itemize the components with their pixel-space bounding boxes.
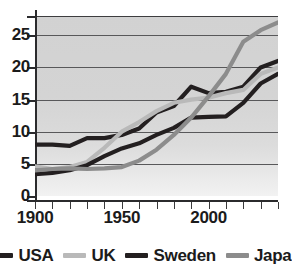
y-axis-label-20: 20 <box>12 58 30 75</box>
x-tick-1930 <box>87 202 88 209</box>
y-axis-label-25: 25 <box>12 26 30 43</box>
series-lines <box>35 16 278 196</box>
x-axis-label-2000: 2000 <box>190 209 227 226</box>
chart-legend: USAUKSwedenJapan <box>0 240 292 270</box>
plot-wrapper: 0510152025 190019502000 <box>0 0 292 232</box>
x-tick-2030 <box>261 202 262 209</box>
y-axis-label-10: 10 <box>12 123 30 140</box>
legend-item-usa[interactable]: USA <box>0 247 53 264</box>
series-line-uk <box>35 67 278 169</box>
legend-label-sweden: Sweden <box>153 247 215 264</box>
y-axis-label-5: 5 <box>21 155 30 172</box>
line-swatch-usa <box>0 253 13 258</box>
x-axis-label-1900: 1900 <box>17 209 54 226</box>
x-tick-2040 <box>278 202 279 209</box>
x-axis-label-1950: 1950 <box>103 209 140 226</box>
legend-label-uk: UK <box>91 247 115 264</box>
y-axis-label-15: 15 <box>12 91 30 108</box>
x-tick-1970 <box>157 202 158 209</box>
legend-item-japan[interactable]: Japan <box>226 247 292 264</box>
legend-item-sweden[interactable]: Sweden <box>125 247 215 264</box>
x-tick-1980 <box>174 202 175 209</box>
line-swatch-uk <box>63 253 86 258</box>
legend-label-usa: USA <box>18 247 53 264</box>
line-swatch-japan <box>226 253 249 258</box>
legend-label-japan: Japan <box>254 247 292 264</box>
legend-item-uk[interactable]: UK <box>63 247 115 264</box>
x-tick-2020 <box>243 202 244 209</box>
x-axis-line <box>27 200 278 202</box>
x-tick-1920 <box>70 202 71 209</box>
chart-root: 0510152025 190019502000 USAUKSwedenJapan <box>0 0 292 276</box>
series-line-japan <box>35 22 278 170</box>
line-swatch-sweden <box>125 253 148 258</box>
